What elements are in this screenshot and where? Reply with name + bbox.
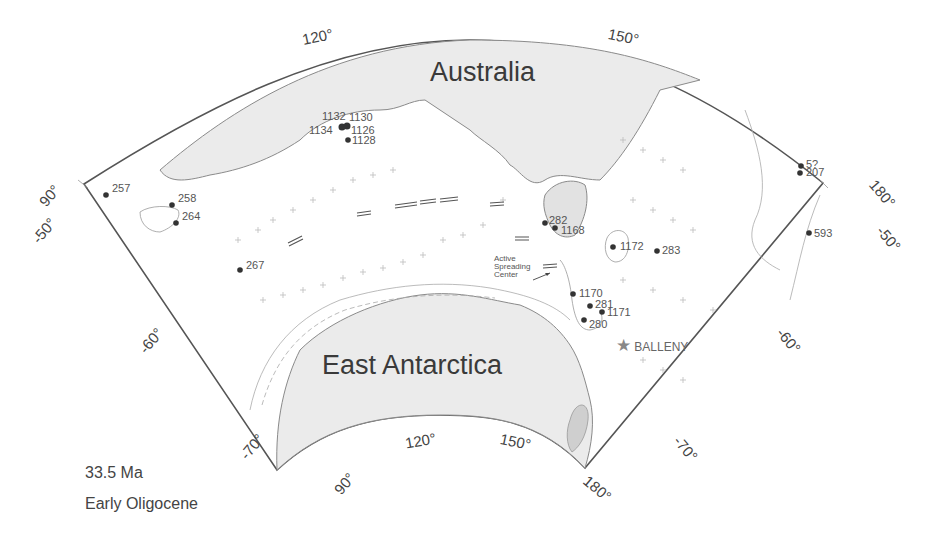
site-label-1171: 1171 xyxy=(607,306,631,318)
epoch-caption: Early Oligocene xyxy=(85,495,198,513)
site-label-257: 257 xyxy=(112,182,130,194)
site-label-1132: 1132 xyxy=(322,110,346,122)
site-label-280: 280 xyxy=(589,318,607,330)
site-label-1130: 1130 xyxy=(349,111,373,123)
site-label-1168: 1168 xyxy=(561,224,585,236)
site-label-1172: 1172 xyxy=(620,240,644,252)
site-label-264: 264 xyxy=(182,210,200,222)
east-antarctica-label: East Antarctica xyxy=(322,350,502,381)
age-caption: 33.5 Ma xyxy=(85,464,143,482)
site-label-283: 283 xyxy=(662,244,680,256)
balleny-marker: ★ BALLENY xyxy=(616,335,688,356)
star-icon: ★ xyxy=(616,336,631,355)
site-label-267: 267 xyxy=(246,259,264,271)
site-label-258: 258 xyxy=(178,192,196,204)
australia-label: Australia xyxy=(430,57,535,88)
spreading-center-label: Active Spreading Center xyxy=(494,255,530,279)
site-label-1134: 1134 xyxy=(309,124,333,136)
site-label-207: 207 xyxy=(806,166,824,178)
site-label-593: 593 xyxy=(814,227,832,239)
balleny-label: BALLENY xyxy=(634,340,688,354)
site-label-1128: 1128 xyxy=(352,134,376,146)
